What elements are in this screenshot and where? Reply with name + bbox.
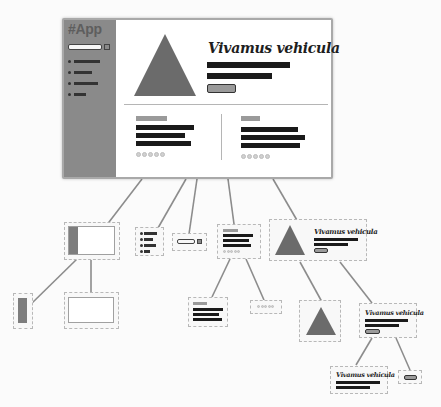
bullet-icon (68, 60, 71, 63)
card-text-line (223, 244, 251, 247)
mini-search-button (197, 239, 202, 244)
hero-text-line (314, 243, 348, 246)
node-search (172, 233, 207, 251)
rating-dot-icon (241, 154, 246, 159)
mini-triangle-icon (306, 307, 336, 335)
mini-frame (68, 297, 114, 323)
card-text-line (136, 133, 185, 138)
mini-rating (257, 305, 274, 308)
node-hero-text: Vivamus vehicula (330, 366, 388, 394)
node-card-rating (250, 300, 282, 314)
node-hero-button (398, 370, 422, 384)
bullet-icon (68, 82, 71, 85)
card-rating[interactable] (241, 154, 270, 159)
card-label (241, 116, 260, 121)
card-text-line (241, 127, 298, 132)
card-text-line (193, 313, 219, 316)
hero-text-line (365, 319, 408, 322)
node-hero-image (299, 300, 341, 342)
card-text-line (223, 234, 253, 237)
mini-button (365, 329, 380, 334)
node-content (64, 292, 119, 329)
node-hero-body: Vivamus vehicula (359, 303, 417, 338)
node-layout (64, 222, 120, 260)
sidebar-item-label (74, 82, 98, 85)
mini-sidebar (69, 227, 78, 254)
rating-dot-icon (160, 152, 165, 157)
hero-headline: Vivamus vehicula (208, 40, 340, 56)
rating-dot-icon (253, 154, 258, 159)
hero-text-line (365, 324, 399, 327)
card-divider (221, 114, 222, 160)
node-hero: Vivamus vehicula (269, 219, 367, 261)
mini-button (404, 375, 417, 380)
rating-dot-icon (247, 154, 252, 159)
rating-dot-icon (265, 154, 270, 159)
hero-triangle-icon (134, 34, 196, 96)
card-text-line (193, 318, 222, 321)
search-input[interactable] (68, 44, 102, 50)
mini-frame (68, 226, 115, 255)
sidebar-item-label (74, 60, 100, 63)
node-headline: Vivamus vehicula (336, 371, 395, 379)
card-text-line (193, 308, 223, 311)
card-text-line (241, 143, 300, 148)
card-text-line (223, 239, 249, 242)
node-card (217, 224, 261, 259)
card-label (193, 302, 207, 305)
sidebar: #App (64, 20, 116, 177)
app-title: #App (68, 21, 102, 37)
card-text-line (241, 135, 305, 140)
hero-text-line (207, 62, 290, 68)
mini-search-input (177, 239, 195, 244)
card-text-line (136, 141, 191, 146)
mini-button (314, 248, 328, 253)
hero-text-line (207, 73, 272, 79)
hero-text-line (314, 238, 358, 241)
mini-rating (223, 250, 240, 253)
bullet-icon (68, 71, 71, 74)
hero-text-line (336, 381, 380, 384)
node-headline: Vivamus vehicula (365, 309, 424, 317)
sidebar-item-label (74, 93, 86, 96)
bullet-icon (68, 93, 71, 96)
rating-dot-icon (148, 152, 153, 157)
mini-triangle-icon (275, 225, 305, 255)
sidebar-item-label (74, 71, 92, 74)
search-button[interactable] (104, 44, 110, 50)
card-text-line (136, 125, 194, 130)
node-menu-list (135, 227, 164, 256)
card-label (136, 116, 167, 121)
rating-dot-icon (259, 154, 264, 159)
node-headline: Vivamus vehicula (314, 227, 377, 236)
rating-dot-icon (142, 152, 147, 157)
hero-text-line (336, 386, 370, 389)
card-rating[interactable] (136, 152, 165, 157)
mini-sidebar (18, 298, 27, 323)
app-window: #App Vivamus vehicula (62, 18, 333, 179)
node-sidebar (13, 293, 33, 329)
hero-button[interactable] (207, 84, 236, 93)
node-card-text (188, 297, 228, 327)
rating-dot-icon (136, 152, 141, 157)
divider (124, 104, 328, 105)
rating-dot-icon (154, 152, 159, 157)
card-label (223, 229, 238, 232)
